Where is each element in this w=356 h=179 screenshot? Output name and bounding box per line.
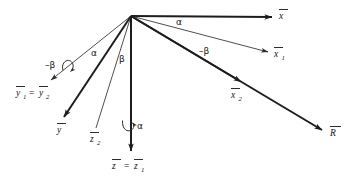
- label-x2-bar: x 2: [230, 89, 243, 103]
- svg-text:z: z: [111, 161, 116, 171]
- svg-text:y: y: [38, 88, 44, 98]
- label-y1-equals-y2: y 1 = y 2: [15, 87, 50, 101]
- svg-text:2: 2: [97, 139, 101, 146]
- svg-text:y: y: [56, 125, 62, 135]
- svg-text:x: x: [278, 11, 284, 21]
- label-z-equals-z1: z = z 1: [111, 160, 144, 174]
- svg-text:=: =: [29, 88, 34, 98]
- rotation-arc-alpha-about-z: [122, 121, 133, 131]
- label-z2-bar: z 2: [89, 133, 101, 147]
- svg-text:z: z: [133, 161, 138, 171]
- vector-y-bar: [64, 16, 131, 117]
- svg-text:1: 1: [282, 54, 285, 61]
- svg-text:1: 1: [141, 166, 144, 173]
- svg-text:2: 2: [46, 93, 50, 100]
- svg-text:z: z: [89, 134, 94, 144]
- diagram-canvas: x x 1 x 2 R y 1 = y 2: [0, 0, 356, 179]
- vector-z2-bar: [96, 16, 131, 128]
- svg-text:x: x: [230, 90, 236, 100]
- vector-axis-rotation-diagram: x x 1 x 2 R y 1 = y 2: [0, 0, 356, 179]
- label-alpha-bottom: α: [137, 121, 143, 131]
- svg-text:2: 2: [239, 95, 243, 102]
- svg-text:1: 1: [23, 93, 26, 100]
- vector-x-bar: [131, 16, 272, 17]
- svg-text:=: =: [124, 161, 129, 171]
- svg-text:x: x: [273, 49, 279, 59]
- vector-x2-bar-arrowhead: [131, 16, 238, 80]
- svg-text:y: y: [15, 88, 21, 98]
- label-x1-bar: x 1: [273, 48, 285, 62]
- label-neg-beta-left: –β: [45, 60, 56, 70]
- svg-text:R: R: [329, 128, 336, 138]
- label-r-bar: R: [329, 127, 341, 139]
- label-x-bar: x: [278, 10, 288, 22]
- label-neg-beta-right: –β: [199, 46, 210, 56]
- label-alpha-left: α: [91, 48, 97, 58]
- label-y-bar: y: [56, 124, 66, 136]
- label-alpha-top: α: [176, 17, 182, 27]
- label-beta-center: β: [119, 54, 125, 64]
